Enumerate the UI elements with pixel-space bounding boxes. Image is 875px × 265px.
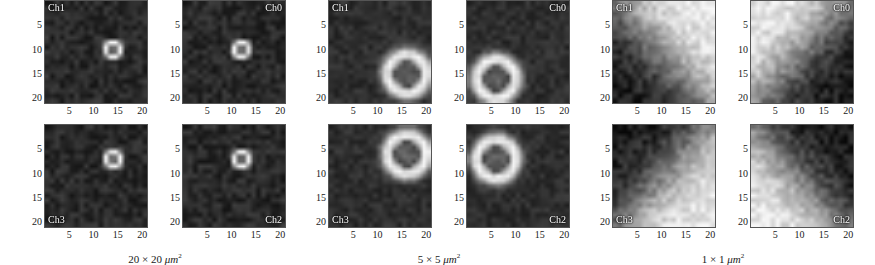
x-tick-label: 15 (113, 230, 123, 240)
x-tick-label: 20 (843, 230, 853, 240)
caption-value: 1 × 1 (702, 253, 725, 265)
heatmap-canvas (45, 125, 147, 227)
y-tick-label: 5 (459, 20, 464, 30)
channel-label-ch2: Ch2 (265, 215, 282, 225)
axis-corner-spacer (446, 228, 466, 242)
y-axis: 5101520 (308, 124, 328, 228)
x-axis: 5101520 (328, 228, 432, 242)
panel-grid: 5101520Ch151015205101520Ch05101520510152… (308, 0, 570, 242)
heatmap-image[interactable]: Ch0 (182, 0, 286, 104)
x-tick-label: 20 (137, 106, 147, 116)
x-tick-label: 10 (373, 230, 383, 240)
panel-group-group-1um: 5101520Ch151015205101520Ch05101520510152… (592, 0, 854, 265)
y-axis: 5101520 (446, 124, 466, 228)
x-tick-label: 15 (251, 106, 261, 116)
channel-label-ch2: Ch2 (549, 215, 566, 225)
x-tick-label: 20 (275, 230, 285, 240)
heatmap-canvas (467, 1, 569, 103)
x-axis: 5101520 (750, 228, 854, 242)
y-tick-label: 10 (600, 45, 610, 55)
y-axis: 5101520 (24, 124, 44, 228)
x-tick-label: 20 (421, 230, 431, 240)
y-tick-label: 5 (175, 144, 180, 154)
x-tick-label: 15 (251, 230, 261, 240)
heatmap-canvas (467, 125, 569, 227)
y-axis: 5101520 (730, 124, 750, 228)
heatmap-image[interactable]: Ch2 (466, 124, 570, 228)
axis-corner-spacer (24, 104, 44, 118)
y-tick-label: 15 (170, 69, 180, 79)
y-tick-label: 5 (37, 20, 42, 30)
x-tick-label: 15 (681, 230, 691, 240)
x-tick-label: 15 (535, 106, 545, 116)
x-tick-label: 20 (421, 106, 431, 116)
heatmap-image[interactable]: Ch3 (328, 124, 432, 228)
y-tick-label: 20 (600, 217, 610, 227)
x-tick-label: 20 (559, 106, 569, 116)
heatmap-panel-ch3: 5101520Ch35101520 (24, 124, 148, 242)
heatmap-panel-ch0: 5101520Ch05101520 (446, 0, 570, 118)
caption-unit: μm (443, 253, 456, 265)
y-tick-label: 15 (454, 69, 464, 79)
heatmap-image[interactable]: Ch1 (44, 0, 148, 104)
y-tick-label: 20 (454, 217, 464, 227)
heatmap-image[interactable]: Ch1 (328, 0, 432, 104)
x-tick-label: 10 (511, 230, 521, 240)
x-axis: 5101520 (328, 104, 432, 118)
x-tick-label: 15 (397, 106, 407, 116)
x-tick-label: 10 (227, 106, 237, 116)
x-tick-label: 20 (137, 230, 147, 240)
y-tick-label: 5 (605, 144, 610, 154)
y-axis: 5101520 (162, 124, 182, 228)
heatmap-panel-ch3: 5101520Ch35101520 (592, 124, 716, 242)
x-tick-label: 15 (535, 230, 545, 240)
heatmap-image[interactable]: Ch3 (44, 124, 148, 228)
heatmap-canvas (329, 1, 431, 103)
x-tick-label: 20 (843, 106, 853, 116)
x-tick-label: 10 (657, 230, 667, 240)
y-axis: 5101520 (446, 0, 466, 104)
y-tick-label: 5 (175, 20, 180, 30)
y-tick-label: 15 (32, 193, 42, 203)
x-tick-label: 15 (819, 230, 829, 240)
x-tick-label: 5 (67, 106, 72, 116)
x-axis: 5101520 (750, 104, 854, 118)
heatmap-canvas (183, 125, 285, 227)
axis-corner-spacer (162, 228, 182, 242)
y-tick-label: 10 (738, 169, 748, 179)
caption-exponent: 2 (457, 252, 461, 260)
y-tick-label: 10 (316, 45, 326, 55)
y-tick-label: 15 (454, 193, 464, 203)
panel-group-group-20um: 5101520Ch151015205101520Ch05101520510152… (24, 0, 286, 265)
y-tick-label: 5 (321, 144, 326, 154)
heatmap-image[interactable]: Ch0 (750, 0, 854, 104)
y-axis: 5101520 (592, 124, 612, 228)
y-tick-label: 10 (316, 169, 326, 179)
x-axis: 5101520 (44, 228, 148, 242)
y-tick-label: 20 (170, 93, 180, 103)
axis-corner-spacer (308, 228, 328, 242)
channel-label-ch2: Ch2 (833, 215, 850, 225)
heatmap-image[interactable]: Ch2 (750, 124, 854, 228)
heatmap-panel-ch0: 5101520Ch05101520 (162, 0, 286, 118)
x-tick-label: 10 (89, 230, 99, 240)
channel-label-ch3: Ch3 (332, 215, 349, 225)
x-tick-label: 10 (657, 106, 667, 116)
x-tick-label: 20 (275, 106, 285, 116)
y-tick-label: 10 (738, 45, 748, 55)
heatmap-image[interactable]: Ch0 (466, 0, 570, 104)
x-axis: 5101520 (182, 104, 286, 118)
heatmap-image[interactable]: Ch2 (182, 124, 286, 228)
heatmap-canvas (45, 1, 147, 103)
y-axis: 5101520 (162, 0, 182, 104)
channel-label-ch1: Ch1 (48, 3, 65, 13)
axis-corner-spacer (24, 228, 44, 242)
heatmap-image[interactable]: Ch1 (612, 0, 716, 104)
group-caption: 1 × 1 μm2 (702, 252, 744, 265)
heatmap-canvas (329, 125, 431, 227)
heatmap-panel-ch2: 5101520Ch25101520 (446, 124, 570, 242)
axis-corner-spacer (592, 228, 612, 242)
axis-corner-spacer (162, 104, 182, 118)
x-tick-label: 20 (705, 106, 715, 116)
heatmap-image[interactable]: Ch3 (612, 124, 716, 228)
